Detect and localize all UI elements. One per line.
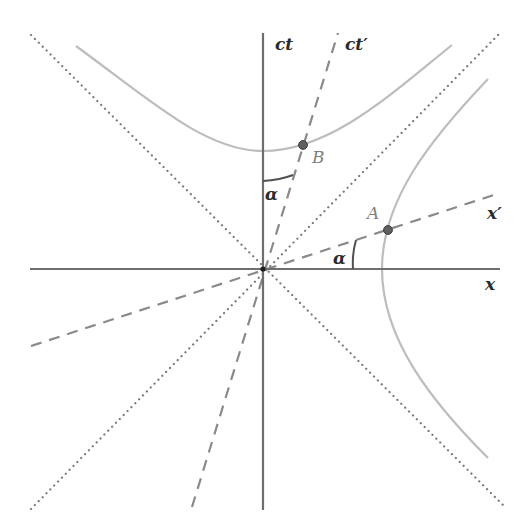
ct-prime-axis-label: ct′ <box>345 34 368 54</box>
point-b-label: B <box>311 147 325 167</box>
point-a <box>384 226 393 235</box>
spacetime-diagram: ct ct′ x x′ B A α α <box>0 0 527 527</box>
ct-axis-label: ct <box>275 34 293 54</box>
angle-label-time: α <box>265 184 278 204</box>
angle-label-space: α <box>333 248 346 268</box>
point-a-label: A <box>365 203 379 223</box>
origin-point <box>260 266 265 271</box>
x-axis-label: x <box>484 274 496 294</box>
light-cone-line-negative <box>31 35 505 507</box>
angle-arc-time <box>263 175 293 181</box>
point-b <box>299 141 308 150</box>
angle-arc-space <box>353 240 356 269</box>
x-prime-axis-label: x′ <box>486 203 502 223</box>
